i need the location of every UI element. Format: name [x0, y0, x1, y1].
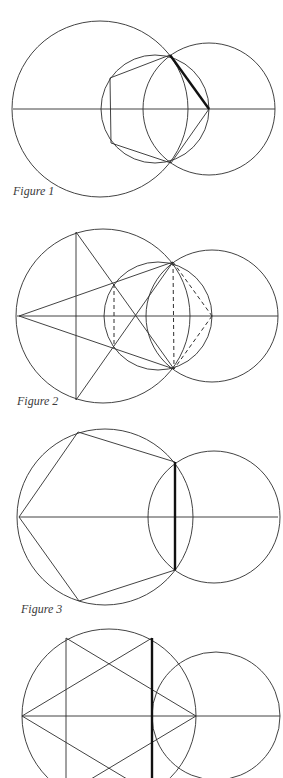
figure-4 [0, 0, 283, 778]
figure-4-diagram [0, 0, 283, 778]
